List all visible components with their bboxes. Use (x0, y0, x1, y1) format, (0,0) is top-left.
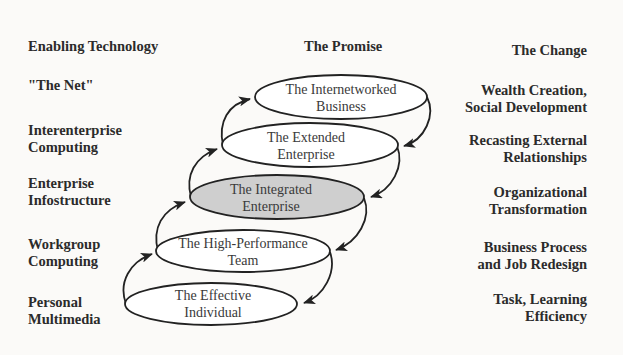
ellipse-extended-enterprise: The Extended Enterprise (222, 123, 398, 167)
ellipse-integrated-enterprise: The Integrated Enterprise (190, 175, 364, 219)
promise-label-line1: The High-Performance (178, 236, 307, 251)
promise-label-line2: Enterprise (277, 147, 335, 162)
promise-label-line2: Team (228, 253, 259, 268)
ellipse-effective-individual: The Effective Individual (125, 283, 297, 325)
promise-label-line2: Individual (184, 305, 242, 320)
ellipse-high-performance-team: The High-Performance Team (156, 230, 330, 272)
ellipse-internetworked-business: The Internetworked Business (255, 75, 427, 119)
promise-label-line1: The Integrated (230, 182, 312, 197)
promise-label-line1: The Extended (267, 130, 345, 145)
promise-label-line2: Business (316, 99, 366, 114)
promise-label-line1: The Internetworked (286, 82, 397, 97)
promise-label-line2: Enterprise (242, 199, 300, 214)
promise-spiral-diagram: The Internetworked Business The Extended… (0, 0, 623, 355)
promise-label-line1: The Effective (175, 288, 251, 303)
